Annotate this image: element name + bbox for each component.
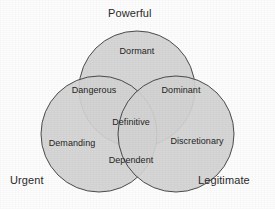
outer-label-powerful: Powerful bbox=[108, 7, 152, 19]
outer-label-urgent: Urgent bbox=[10, 174, 44, 186]
region-label-dangerous: Dangerous bbox=[72, 85, 116, 95]
region-label-definitive: Definitive bbox=[112, 117, 150, 127]
region-label-dependent: Dependent bbox=[109, 155, 154, 165]
region-label-dominant: Dominant bbox=[162, 85, 201, 95]
region-label-discretionary: Discretionary bbox=[170, 136, 223, 146]
region-label-dormant: Dormant bbox=[120, 46, 155, 56]
region-label-demanding: Demanding bbox=[49, 138, 95, 148]
outer-label-legitimate: Legitimate bbox=[198, 174, 250, 186]
venn-diagram-figure: Powerful Urgent Legitimate Dormant Dange… bbox=[0, 0, 275, 209]
